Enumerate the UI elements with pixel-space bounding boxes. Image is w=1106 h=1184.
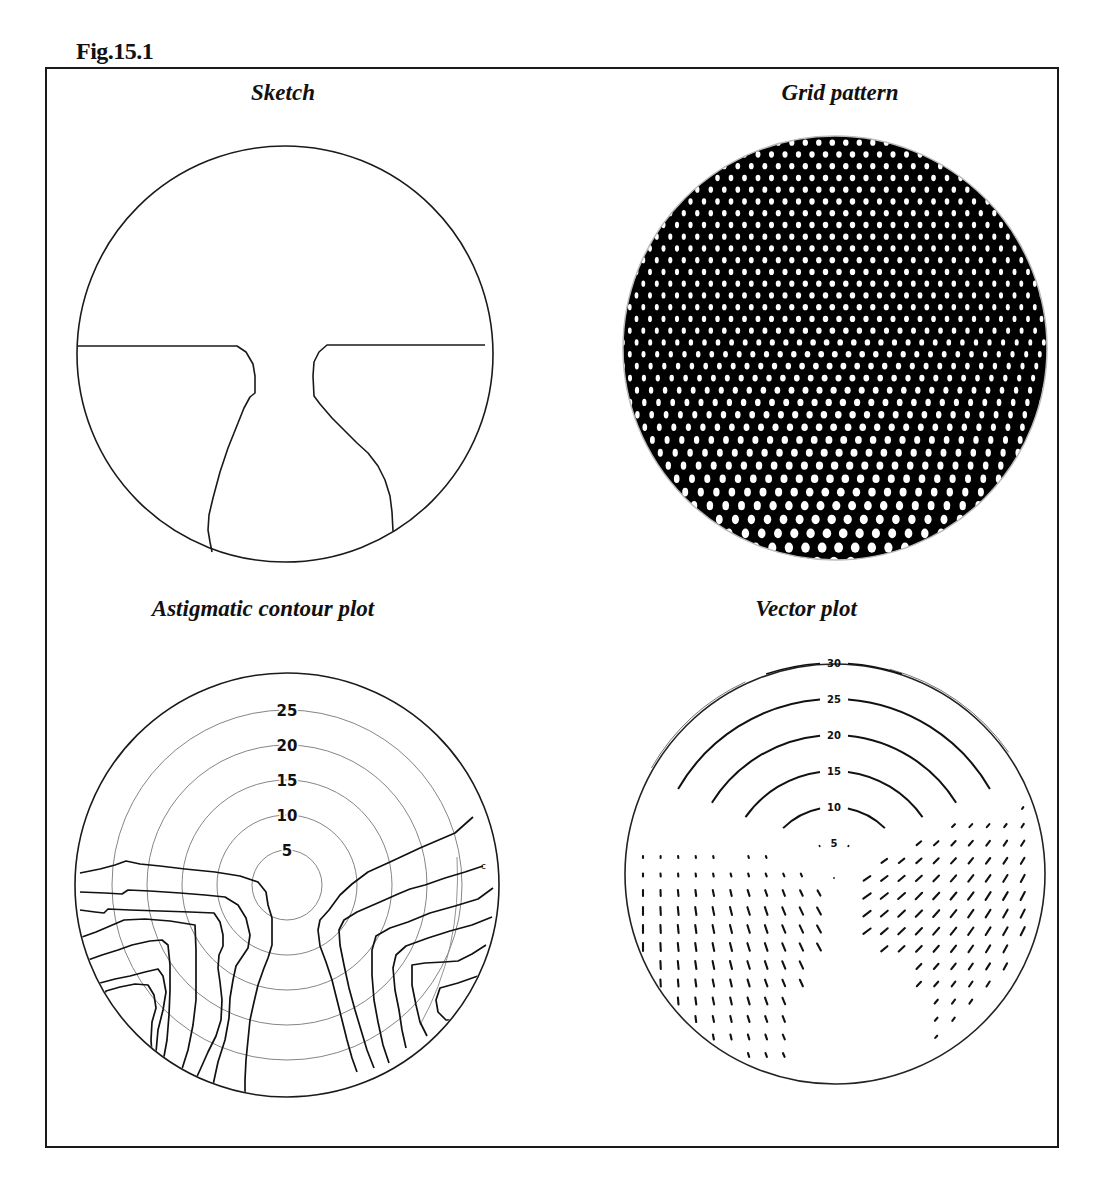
vector-arrow xyxy=(713,925,715,933)
vector-arrow xyxy=(678,890,679,896)
vector-arrow xyxy=(917,841,922,845)
vector-arrow xyxy=(934,964,939,969)
vector-arrow xyxy=(916,946,922,952)
vector-arrow xyxy=(917,964,922,969)
vector-arrow xyxy=(730,907,732,915)
vector-arrow xyxy=(730,925,732,933)
vector-arrow xyxy=(969,841,973,846)
sketch-line-1 xyxy=(313,345,485,531)
vector-arrow xyxy=(968,910,973,917)
vector-arrow xyxy=(881,893,888,899)
vector-arrow xyxy=(713,1016,714,1022)
vector-arrow xyxy=(800,980,803,986)
vector-arrow xyxy=(765,925,768,933)
vector-arrow xyxy=(986,892,991,900)
vector-arrow xyxy=(935,1036,937,1038)
vector-ring-label: 10 xyxy=(827,802,841,813)
vector-arrow xyxy=(968,892,973,899)
vector-arrow xyxy=(898,893,905,899)
vector-arrow xyxy=(695,961,696,969)
vector-arrow xyxy=(748,890,750,896)
vector-arrow xyxy=(881,946,887,951)
astig-contour-9 xyxy=(372,888,493,1063)
vector-arrow xyxy=(1004,858,1008,864)
astig-annotation: c xyxy=(481,861,486,871)
vector-arrow xyxy=(917,982,921,986)
vector-arrow xyxy=(1003,892,1008,900)
vector-arrow xyxy=(800,925,803,932)
vector-arrow xyxy=(986,910,991,918)
vector-arrow xyxy=(1021,927,1025,935)
vector-arrow xyxy=(916,859,921,864)
astig-ring-25 xyxy=(112,710,462,1060)
vector-arrow xyxy=(678,925,679,933)
astigmatic-contour-plot: 510152025 c xyxy=(75,673,499,1097)
vector-arrow xyxy=(969,824,972,827)
vector-arrow xyxy=(765,1016,767,1022)
vector-arrow xyxy=(935,1000,938,1004)
vector-arrow xyxy=(986,927,991,935)
vector-arrow xyxy=(951,893,957,900)
vector-arrow xyxy=(765,998,767,1005)
astig-ring-label: 20 xyxy=(277,737,298,755)
vector-arrow xyxy=(695,907,696,915)
vector-arrow xyxy=(933,876,939,882)
vector-arrow xyxy=(1004,841,1007,846)
vector-arrow xyxy=(934,841,938,845)
vector-arrow xyxy=(748,980,750,987)
vector-arrow xyxy=(765,980,767,987)
vector-arrow xyxy=(1021,858,1025,864)
vector-arrow xyxy=(969,982,972,987)
vector-arrow xyxy=(747,961,749,969)
vector-arrow xyxy=(1021,841,1024,846)
vector-arrow xyxy=(748,1053,749,1057)
vector-arrow xyxy=(748,874,749,877)
vector-arrow xyxy=(969,858,973,863)
vector-ring-label: 5 xyxy=(831,838,838,849)
vector-arrow xyxy=(987,982,990,987)
astig-ring-label: 10 xyxy=(277,807,298,825)
vector-arrow xyxy=(881,928,888,934)
vector-arrow xyxy=(986,963,990,969)
vector-outline xyxy=(625,664,1045,1084)
vector-arrow xyxy=(748,1016,750,1022)
vector-arrow xyxy=(1022,807,1023,809)
sketch-boundary-lines xyxy=(78,345,485,552)
vector-arrow xyxy=(748,1035,749,1040)
vector-ring-label: 20 xyxy=(827,730,841,741)
vector-arrow xyxy=(678,998,679,1005)
sketch-outline xyxy=(77,146,493,562)
vector-arrow xyxy=(863,893,870,898)
vector-arrow xyxy=(695,998,696,1005)
vector-arrow xyxy=(747,907,749,915)
vector-arrow xyxy=(933,928,939,935)
vector-arrow xyxy=(1004,945,1008,952)
vector-arrow xyxy=(713,890,714,896)
vector-arrow xyxy=(713,980,714,987)
vector-arrow xyxy=(916,893,922,899)
vector-arrow xyxy=(713,1035,714,1040)
vector-arrow xyxy=(713,943,715,951)
vector-arrow xyxy=(695,890,696,896)
vector-arrow xyxy=(952,824,955,827)
vector-arrow xyxy=(817,944,821,951)
vector-arrow xyxy=(730,961,732,969)
vector-arrow xyxy=(969,1000,972,1004)
vector-arrow xyxy=(747,925,749,933)
vector-plot: 51015202530 xyxy=(625,658,1045,1084)
vector-arrow xyxy=(678,907,679,915)
vector-arrow xyxy=(747,943,749,951)
vector-arrow xyxy=(968,928,973,935)
vector-ring-label: 25 xyxy=(827,694,841,705)
astig-ring-labels: 510152025 xyxy=(277,702,298,860)
vector-arrow xyxy=(863,929,870,934)
astig-contour-12 xyxy=(436,976,478,1020)
vector-arrow xyxy=(800,890,803,895)
vector-arrow xyxy=(881,911,888,917)
grid-pattern-panel xyxy=(621,136,1052,567)
vector-arrow xyxy=(899,876,905,881)
vector-ring-arcs xyxy=(678,664,990,847)
vector-arrow xyxy=(952,982,956,987)
astig-contour-3 xyxy=(82,919,196,1072)
vector-arrow xyxy=(783,874,784,877)
